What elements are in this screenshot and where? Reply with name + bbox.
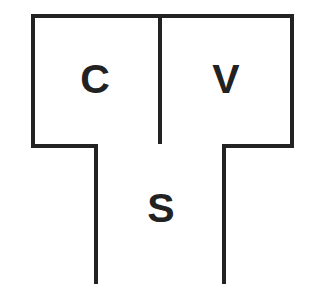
label-v: V: [196, 59, 256, 100]
label-s: S: [131, 188, 191, 229]
label-c: C: [65, 59, 125, 100]
